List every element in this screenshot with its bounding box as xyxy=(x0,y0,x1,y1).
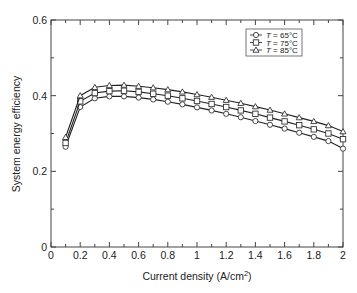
x-tick-label: 1.2 xyxy=(219,249,234,261)
x-tick-label: 0.4 xyxy=(102,249,117,261)
x-tick-label: 0.2 xyxy=(73,249,88,261)
efficiency-chart: 00.20.40.60.811.21.41.61.8200.20.40.6 T … xyxy=(0,0,357,293)
x-tick-label: 1.8 xyxy=(306,249,321,261)
x-tick-label: 1 xyxy=(194,249,200,261)
series-layer xyxy=(63,82,346,151)
square-marker-icon xyxy=(165,93,170,98)
square-marker-icon xyxy=(282,119,287,124)
series-line xyxy=(63,82,346,139)
square-marker-icon xyxy=(326,131,331,136)
circle-marker-icon xyxy=(282,126,287,131)
square-marker-icon xyxy=(238,108,243,113)
circle-marker-icon xyxy=(194,105,199,110)
circle-marker-icon xyxy=(267,122,272,127)
square-marker-icon xyxy=(224,104,229,109)
circle-marker-icon xyxy=(165,99,170,104)
x-tick-label: 1.6 xyxy=(277,249,292,261)
x-tick-label: 0 xyxy=(48,249,54,261)
circle-marker-icon xyxy=(253,118,258,123)
x-axis-label: Current density (A/cm2) xyxy=(142,269,251,282)
square-marker-icon xyxy=(136,89,141,94)
y-tick-label: 0.2 xyxy=(32,165,47,177)
circle-marker-icon xyxy=(326,138,331,143)
circle-marker-icon xyxy=(311,134,316,139)
circle-marker-icon xyxy=(92,96,97,101)
square-marker-icon xyxy=(209,101,214,106)
square-marker-icon xyxy=(107,88,112,93)
y-axis-label: System energy efficiency xyxy=(10,75,22,192)
x-tick-label: 2 xyxy=(340,249,346,261)
square-marker-icon xyxy=(267,115,272,120)
circle-marker-icon xyxy=(224,111,229,116)
circle-marker-icon xyxy=(136,95,141,100)
square-marker-icon xyxy=(253,111,258,116)
circle-marker-icon xyxy=(238,115,243,120)
legend: T = 65°CT = 75°CT = 85°C xyxy=(246,29,302,56)
x-tick-label: 1.4 xyxy=(248,249,263,261)
chart-canvas: 00.20.40.60.811.21.41.61.8200.20.40.6 T … xyxy=(0,0,357,293)
square-marker-icon xyxy=(151,91,156,96)
circle-marker-icon xyxy=(180,102,185,107)
circle-marker-icon xyxy=(151,97,156,102)
y-tick-label: 0.6 xyxy=(32,14,47,26)
square-marker-icon xyxy=(297,122,302,127)
triangle-marker-icon xyxy=(77,93,83,98)
square-marker-icon xyxy=(253,40,258,45)
x-tick-label: 0.8 xyxy=(160,249,175,261)
circle-marker-icon xyxy=(297,130,302,135)
circle-marker-icon xyxy=(107,94,112,99)
square-marker-icon xyxy=(63,140,68,145)
circle-marker-icon xyxy=(253,32,258,37)
y-tick-label: 0.4 xyxy=(32,90,47,102)
square-marker-icon xyxy=(180,96,185,101)
circle-marker-icon xyxy=(209,108,214,113)
square-marker-icon xyxy=(121,88,126,93)
square-marker-icon xyxy=(311,127,316,132)
x-tick-label: 0.6 xyxy=(131,249,146,261)
y-tick-label: 0 xyxy=(41,241,47,253)
circle-marker-icon xyxy=(121,94,126,99)
circle-marker-icon xyxy=(340,146,345,151)
legend-label: T = 85°C xyxy=(266,46,298,55)
square-marker-icon xyxy=(340,136,345,141)
square-marker-icon xyxy=(194,98,199,103)
square-marker-icon xyxy=(92,90,97,95)
